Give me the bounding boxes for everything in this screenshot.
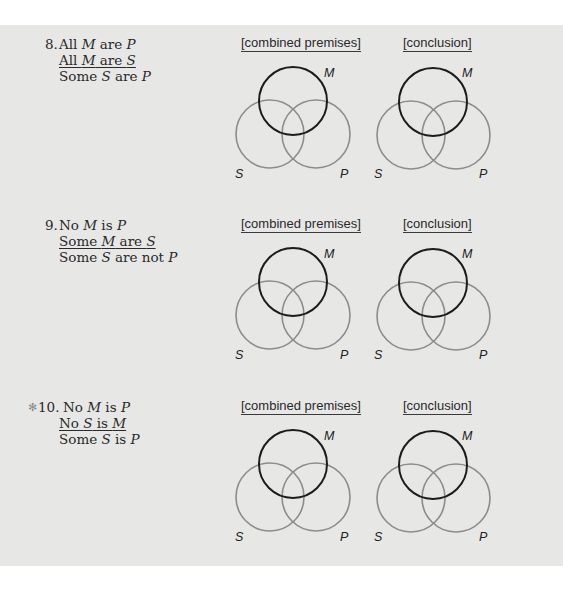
s-label: S: [374, 348, 383, 362]
conclusion-venn-diagram[interactable]: M S P: [0, 363, 563, 544]
conclusion-venn-diagram[interactable]: M S P: [0, 181, 563, 362]
exercise-10: ✻ 10. No M is P No S is M Some S is P [c…: [0, 363, 563, 544]
m-circle: [399, 249, 467, 317]
p-label: P: [479, 167, 488, 181]
m-circle: [399, 431, 467, 499]
m-circle: [399, 68, 467, 136]
m-label: M: [462, 429, 473, 443]
m-label: M: [462, 66, 473, 80]
exercise-9: 9. No M is P Some M are S Some S are not…: [0, 181, 563, 362]
s-label: S: [374, 167, 383, 181]
exercise-8: 8. All M are P All M are S Some S are P …: [0, 0, 563, 181]
p-label: P: [479, 530, 488, 544]
p-label: P: [479, 348, 488, 362]
conclusion-venn-diagram[interactable]: M S P: [0, 0, 563, 181]
m-label: M: [462, 247, 473, 261]
s-label: S: [374, 530, 383, 544]
